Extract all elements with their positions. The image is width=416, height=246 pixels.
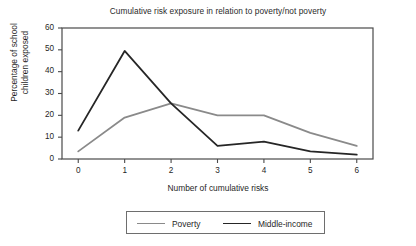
plot-frame <box>62 28 373 159</box>
series-line-poverty <box>78 103 357 151</box>
legend-swatch-poverty <box>137 223 165 224</box>
plot-canvas <box>0 0 416 246</box>
legend-swatch-middle-income <box>223 223 251 224</box>
chart-figure: Cumulative risk exposure in relation to … <box>0 0 416 246</box>
series-line-middle-income <box>78 51 357 155</box>
legend-entry-poverty: Poverty <box>137 216 200 231</box>
legend-entry-middle-income: Middle-income <box>223 216 312 231</box>
legend-label-poverty: Poverty <box>172 219 200 229</box>
chart-legend: Poverty Middle-income <box>126 211 325 234</box>
legend-label-middle-income: Middle-income <box>258 219 312 229</box>
